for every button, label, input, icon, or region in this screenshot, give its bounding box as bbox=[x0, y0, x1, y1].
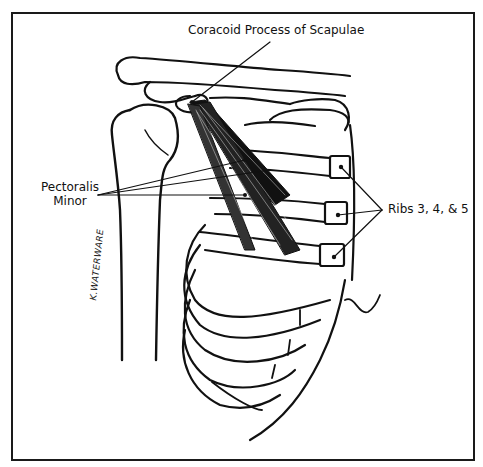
label-pectoralis-minor: Pectoralis Minor bbox=[40, 180, 100, 208]
anatomy-drawing bbox=[0, 0, 483, 467]
label-coracoid-process: Coracoid Process of Scapulae bbox=[188, 23, 364, 37]
label-pectoralis-line1: Pectoralis bbox=[40, 180, 100, 194]
humerus bbox=[112, 105, 178, 360]
label-ribs: Ribs 3, 4, & 5 bbox=[388, 202, 469, 216]
label-pectoralis-line2: Minor bbox=[40, 194, 100, 208]
clavicle bbox=[117, 57, 350, 96]
